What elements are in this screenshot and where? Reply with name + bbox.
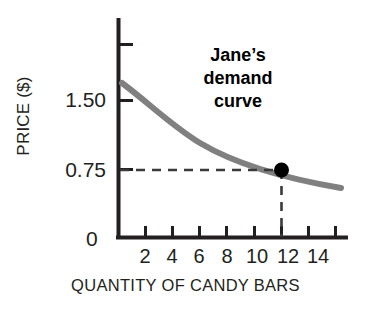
equilibrium-point-marker [274, 163, 289, 178]
x-tick-label-4: 4 [157, 245, 187, 267]
curve-annotation-line-2: demand [176, 67, 300, 90]
y-tick-label-150: 1.50 [40, 89, 106, 110]
x-tick-labels: 2 4 6 8 10 12 14 [0, 245, 371, 271]
curve-annotation: Jane’s demand curve [176, 44, 300, 113]
x-tick-label-14: 14 [303, 245, 333, 267]
x-tick-label-12: 12 [273, 245, 303, 267]
x-axis-title: QUANTITY OF CANDY BARS [0, 276, 371, 295]
x-tick-label-8: 8 [212, 245, 242, 267]
curve-annotation-line-3: curve [176, 90, 300, 113]
x-tick-label-2: 2 [130, 245, 160, 267]
demand-curve-chart: PRICE ($) 1.50 0.75 0 2 4 6 8 10 12 14 Q… [0, 0, 371, 324]
x-tick-label-10: 10 [242, 245, 272, 267]
curve-annotation-line-1: Jane’s [176, 44, 300, 67]
y-axis-title: PRICE ($) [14, 56, 34, 176]
y-tick-label-075: 0.75 [40, 159, 106, 180]
x-tick-label-6: 6 [184, 245, 214, 267]
